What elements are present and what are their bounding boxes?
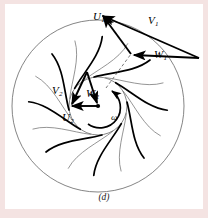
label-W2: W2	[86, 88, 99, 99]
blade	[82, 124, 134, 176]
label-W1: W1	[154, 49, 167, 60]
impeller-diagram	[0, 0, 208, 218]
label-U1: U1	[93, 11, 104, 22]
blade	[127, 102, 144, 158]
figure-page: U1 V1 W1 V2 W2 U2 ω (d)	[0, 0, 208, 218]
label-V1: V1	[148, 15, 158, 26]
blade	[94, 60, 150, 77]
rotation-axis-dot	[96, 104, 100, 108]
label-V2: V2	[52, 85, 62, 96]
blade	[52, 54, 69, 110]
blade	[116, 71, 168, 123]
label-omega: ω	[111, 113, 117, 122]
blade	[63, 37, 115, 89]
blade	[46, 135, 102, 152]
label-U2: U2	[62, 112, 73, 123]
figure-caption: (d)	[0, 192, 208, 202]
